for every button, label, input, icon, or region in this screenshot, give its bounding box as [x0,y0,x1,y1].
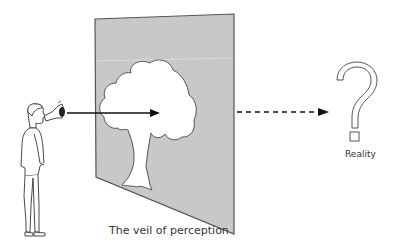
diagram-canvas [0,0,397,250]
question-mark-icon [337,62,377,141]
eye-icon [44,101,65,121]
veil-of-perception-label: The veil of perception [109,224,229,237]
reality-arrowhead [318,108,329,116]
reality-label: Reality [345,149,376,159]
observer-icon [21,104,45,236]
